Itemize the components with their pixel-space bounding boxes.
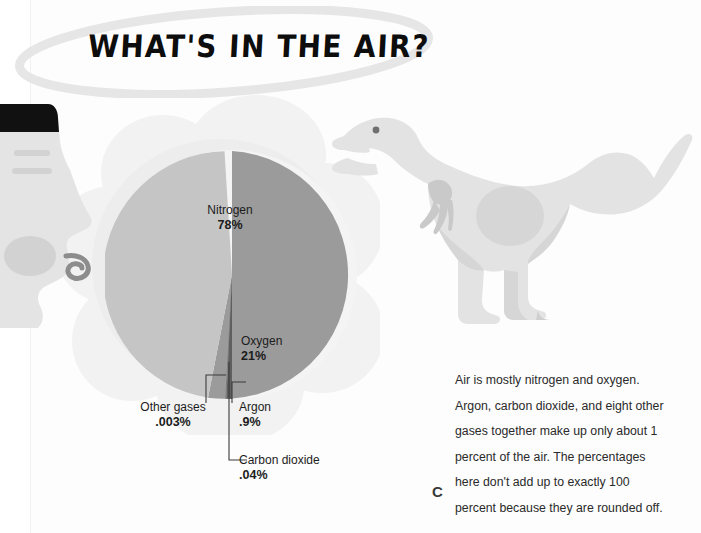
- label-oxygen: Oxygen 21%: [241, 334, 282, 364]
- label-nitrogen-name: Nitrogen: [167, 203, 293, 218]
- label-argon: Argon .9%: [239, 400, 271, 430]
- caption-line: percent because they are rounded off.: [455, 496, 693, 522]
- label-carbon-dioxide-percent: .04%: [239, 468, 320, 483]
- caption-line: percent of the air. The percentages: [455, 445, 693, 471]
- label-nitrogen-percent: 78%: [167, 218, 293, 233]
- label-argon-percent: .9%: [239, 415, 271, 430]
- page-title-text: WHAT'S IN THE AIR?: [87, 28, 429, 64]
- label-carbon-dioxide: Carbon dioxide .04%: [239, 453, 320, 483]
- label-other-gases-percent: .003%: [134, 415, 212, 430]
- air-composition-page: WHAT'S IN THE AIR?: [0, 0, 701, 533]
- leader-other-gases: [206, 375, 226, 403]
- label-nitrogen: Nitrogen 78%: [167, 203, 293, 233]
- tyrannosaurus-silhouette: [332, 100, 701, 335]
- caption-line: here don't add up to exactly 100: [455, 470, 693, 496]
- label-oxygen-name: Oxygen: [241, 334, 282, 349]
- label-other-gases-name: Other gases: [134, 400, 212, 415]
- caption-line: Air is mostly nitrogen and oxygen.: [455, 368, 693, 394]
- label-argon-name: Argon: [239, 400, 271, 415]
- label-oxygen-percent: 21%: [241, 349, 282, 364]
- label-other-gases: Other gases .003%: [134, 400, 212, 430]
- page-title: WHAT'S IN THE AIR?: [88, 28, 428, 84]
- caption-line: Argon, carbon dioxide, and eight other: [455, 394, 693, 420]
- caption-line: gases together make up only about 1: [455, 419, 693, 445]
- caption-marker-icon: C: [432, 483, 443, 500]
- caption-paragraph: Air is mostly nitrogen and oxygen. Argon…: [455, 368, 693, 521]
- label-carbon-dioxide-name: Carbon dioxide: [239, 453, 320, 468]
